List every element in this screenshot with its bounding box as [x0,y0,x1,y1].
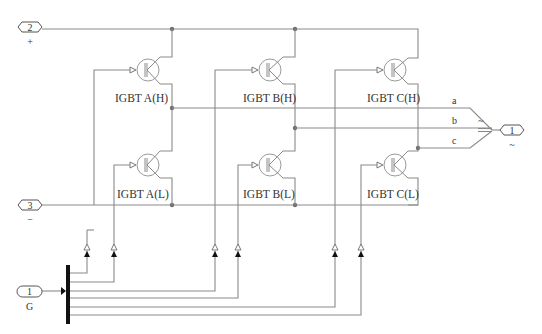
phase-b-label: b [452,115,457,126]
inverter-diagram: a b c ~ IGBT A(H) IGBT A(L) IGBT B(H) [0,0,542,334]
demux-input-arrow-icon [61,287,66,295]
ac-mux [478,129,500,132]
svg-text:1: 1 [27,286,32,297]
port-ac-out-sign: ~ [509,139,515,150]
svg-text:2: 2 [28,22,33,33]
phase-c-label: c [452,135,457,146]
phase-a-label: a [452,95,457,106]
igbt-c-high-label: IGBT C(H) [367,92,420,105]
dc-plus-rail [42,27,418,58]
igbt-a-low-label: IGBT A(L) [117,188,169,201]
igbt-c-low-label: IGBT C(L) [367,188,419,201]
phase-c-leg [408,84,492,205]
igbt-b-high[interactable] [215,57,283,245]
mux-tilde-symbol: ~ [478,115,484,126]
port-gate-label: G [26,301,33,312]
port-dc-plus-sign: + [27,36,33,47]
igbt-b-high-label: IGBT B(H) [243,92,296,105]
port-dc-minus[interactable]: 3 [18,200,42,211]
igbt-a-high-label: IGBT A(H) [115,92,168,105]
igbt-c-high[interactable] [335,58,408,245]
port-dc-plus[interactable]: 2 [18,22,42,33]
igbt-b-low-label: IGBT B(L) [243,188,295,201]
port-gate[interactable]: 1 [17,286,42,298]
port-ac-out[interactable]: 1 [500,125,524,136]
port-dc-minus-sign: − [27,214,33,225]
dc-minus-rail [42,203,418,207]
svg-text:3: 3 [28,200,33,211]
svg-text:1: 1 [510,125,515,136]
phase-a-leg [160,84,492,205]
igbt-a-high[interactable] [94,57,160,205]
demux-bus-bar[interactable] [66,265,70,324]
